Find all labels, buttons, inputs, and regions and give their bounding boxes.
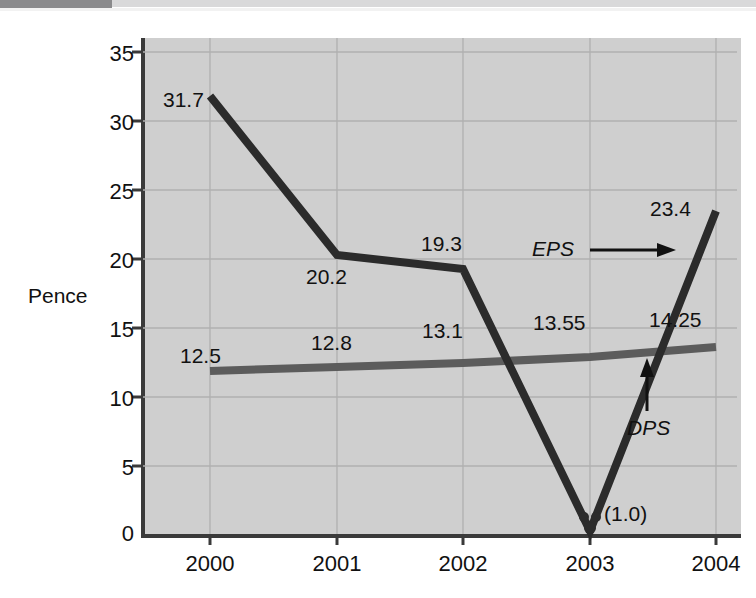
x-tick-label-2004: 2004: [671, 551, 756, 577]
dps-series-annotation: DPS: [627, 416, 670, 440]
plot-area: [141, 38, 741, 538]
x-tick-label-2002: 2002: [418, 551, 508, 577]
y-tick-label-25: 25: [88, 179, 134, 205]
x-tick-label-2000: 2000: [165, 551, 255, 577]
dps-data-label-2002: 13.1: [422, 319, 463, 343]
eps-data-label-2000: 31.7: [163, 88, 204, 112]
dps-data-label-2004: 14.25: [649, 308, 702, 332]
eps-series-annotation: EPS: [532, 237, 574, 261]
eps-data-label-2002: 19.3: [421, 232, 462, 256]
dps-data-label-2000: 12.5: [180, 344, 221, 368]
dps-data-label-2001: 12.8: [311, 331, 352, 355]
y-tick-label-20: 20: [88, 248, 134, 274]
dps-data-label-2003: 13.55: [533, 311, 586, 335]
x-tick-label-2001: 2001: [292, 551, 382, 577]
eps-data-label-2004: 23.4: [650, 197, 691, 221]
y-tick-label-0: 0: [88, 521, 134, 547]
eps-dps-line-chart: Pence 35 30 25 20 15 10 5 0 2000 2001 20…: [0, 0, 756, 598]
y-tick-label-30: 30: [88, 110, 134, 136]
y-axis-title: Pence: [28, 284, 88, 308]
x-tick-label-2003: 2003: [545, 551, 635, 577]
eps-data-label-2001: 20.2: [306, 265, 347, 289]
y-tick-label-35: 35: [88, 41, 134, 67]
y-tick-label-5: 5: [88, 455, 134, 481]
y-tick-label-10: 10: [88, 386, 134, 412]
chart-page: Pence 35 30 25 20 15 10 5 0 2000 2001 20…: [0, 0, 756, 598]
y-tick-label-15: 15: [88, 317, 134, 343]
eps-data-label-2003: (1.0): [604, 502, 647, 526]
